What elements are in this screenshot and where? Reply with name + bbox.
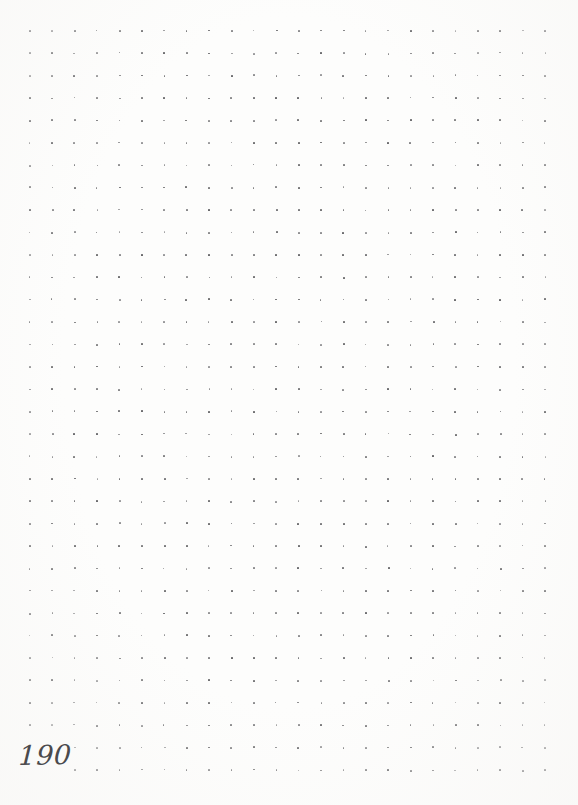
grid-dot <box>51 724 53 726</box>
grid-dot <box>119 724 121 726</box>
grid-dot <box>186 612 188 614</box>
grid-dot <box>297 747 299 749</box>
grid-dot <box>343 299 344 300</box>
grid-dot <box>97 165 98 166</box>
grid-dot <box>141 142 143 144</box>
grid-dot <box>29 702 31 704</box>
grid-dot <box>387 366 389 368</box>
grid-dot <box>544 254 546 256</box>
grid-dot <box>365 53 367 55</box>
grid-dot <box>119 658 121 660</box>
grid-dot <box>320 232 322 234</box>
grid-dot <box>186 276 187 277</box>
grid-dot <box>119 366 120 367</box>
grid-dot <box>209 277 211 279</box>
grid-dot <box>164 634 166 636</box>
grid-dot <box>141 388 143 390</box>
grid-dot <box>343 702 345 704</box>
grid-dot <box>477 724 479 726</box>
grid-dot <box>410 187 412 189</box>
grid-dot <box>141 410 143 412</box>
grid-dot <box>521 747 523 749</box>
grid-dot <box>410 657 412 659</box>
grid-dot <box>163 254 165 256</box>
grid-dot <box>253 209 255 211</box>
grid-dot <box>410 232 412 234</box>
grid-dot <box>230 299 232 301</box>
grid-dot <box>51 98 52 99</box>
grid-dot <box>387 142 389 144</box>
grid-dot <box>410 590 412 592</box>
grid-dot <box>500 321 501 322</box>
grid-dot <box>410 388 412 390</box>
grid-dot <box>297 119 299 121</box>
grid-dot <box>477 75 478 76</box>
grid-dot <box>119 52 120 53</box>
grid-dot <box>119 343 121 345</box>
grid-dot <box>29 120 31 122</box>
grid-dot <box>544 75 546 77</box>
grid-dot <box>164 411 166 413</box>
grid-dot <box>253 590 255 592</box>
grid-dot <box>410 298 412 300</box>
grid-dot <box>432 545 434 547</box>
grid-dot <box>275 321 277 323</box>
grid-dot <box>522 30 524 32</box>
grid-dot <box>186 725 188 727</box>
grid-dot <box>276 30 278 32</box>
grid-dot <box>141 455 143 457</box>
grid-dot <box>477 97 479 99</box>
grid-dot <box>455 30 457 32</box>
grid-dot <box>365 657 367 659</box>
grid-dot <box>96 613 98 615</box>
grid-dot <box>275 119 277 121</box>
grid-dot <box>163 455 165 457</box>
grid-dot <box>52 254 54 256</box>
grid-dot <box>388 53 390 55</box>
grid-dot <box>320 545 322 547</box>
grid-dot <box>186 75 187 76</box>
grid-dot <box>231 590 233 592</box>
grid-dot <box>499 523 501 525</box>
grid-dot <box>298 500 300 502</box>
grid-dot <box>253 523 255 525</box>
grid-dot <box>141 277 143 279</box>
grid-dot <box>163 97 165 99</box>
grid-dot <box>409 411 411 413</box>
grid-dot <box>499 657 500 658</box>
grid-dot <box>544 724 546 726</box>
grid-dot <box>208 567 209 568</box>
grid-dot <box>477 680 479 682</box>
grid-dot <box>51 478 53 480</box>
grid-dot <box>388 75 390 77</box>
grid-dot <box>141 568 143 570</box>
grid-dot <box>164 276 165 277</box>
grid-dot <box>544 613 545 614</box>
grid-dot <box>298 187 300 189</box>
grid-dot <box>298 232 300 234</box>
grid-dot <box>387 590 389 592</box>
grid-dot <box>388 276 389 277</box>
grid-dot <box>477 545 479 547</box>
grid-dot <box>365 500 367 502</box>
grid-dot <box>297 97 299 99</box>
grid-dot <box>96 52 98 54</box>
grid-dot <box>230 545 232 547</box>
grid-dot <box>365 456 367 458</box>
grid-dot <box>365 187 367 189</box>
grid-dot <box>321 97 323 99</box>
grid-dot <box>96 568 98 570</box>
grid-dot <box>544 186 546 188</box>
grid-dot <box>231 53 233 55</box>
grid-dot <box>253 366 255 368</box>
grid-dot <box>477 232 479 234</box>
grid-dot <box>521 478 523 480</box>
grid-dot <box>29 724 31 726</box>
grid-dot <box>51 119 53 121</box>
grid-dot <box>298 545 300 547</box>
grid-dot <box>544 30 546 32</box>
grid-dot <box>231 142 233 144</box>
grid-dot <box>96 702 97 703</box>
grid-dot <box>51 568 53 570</box>
grid-dot <box>298 209 300 211</box>
